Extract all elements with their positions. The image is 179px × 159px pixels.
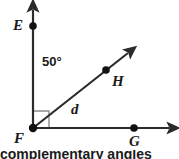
point-label-f: F [14,131,24,146]
point-g-marker [130,124,138,132]
point-label-h: H [112,74,124,89]
point-f-marker [29,124,37,132]
point-label-g: G [129,134,140,149]
caption-text: complementary angles [0,150,152,159]
geometry-canvas [0,0,179,159]
point-h-marker [102,66,110,74]
angle-measure-label: 50° [42,55,62,68]
point-e-marker [29,22,37,30]
angle-diagram: E F G H 50° d complementary angles [0,0,179,159]
caption-clipped-strip: complementary angles [0,150,179,159]
point-label-e: E [13,18,23,33]
segment-label-d: d [71,102,79,117]
